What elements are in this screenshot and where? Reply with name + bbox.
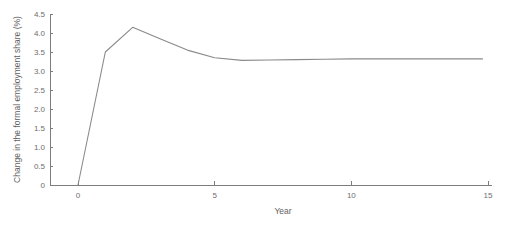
y-tick-label: 3.0: [34, 67, 46, 76]
y-tick-label: 0: [41, 181, 46, 190]
x-axis-tick-marks: [78, 181, 488, 185]
y-tick-label: 1.0: [34, 143, 46, 152]
x-tick-label: 0: [76, 191, 81, 200]
y-axis-title: Change in the formal employment share (%…: [12, 16, 22, 183]
y-axis-tick-labels: 00.51.01.52.02.53.03.54.04.5: [34, 10, 46, 190]
x-tick-label: 15: [484, 191, 493, 200]
y-tick-label: 4.0: [34, 29, 46, 38]
x-axis-tick-labels: 051015: [76, 191, 493, 200]
y-tick-label: 4.5: [34, 10, 46, 19]
y-tick-label: 1.5: [34, 124, 46, 133]
y-tick-label: 3.5: [34, 48, 46, 57]
data-series-line: [78, 27, 483, 185]
x-tick-label: 10: [347, 191, 356, 200]
y-tick-label: 2.0: [34, 105, 46, 114]
x-axis-title: Year: [274, 206, 291, 216]
x-tick-label: 5: [212, 191, 217, 200]
line-chart: 00.51.01.52.02.53.03.54.04.5 051015 Chan…: [0, 0, 505, 229]
chart-figure: 00.51.01.52.02.53.03.54.04.5 051015 Chan…: [0, 0, 505, 229]
y-tick-label: 0.5: [34, 162, 46, 171]
y-tick-label: 2.5: [34, 86, 46, 95]
